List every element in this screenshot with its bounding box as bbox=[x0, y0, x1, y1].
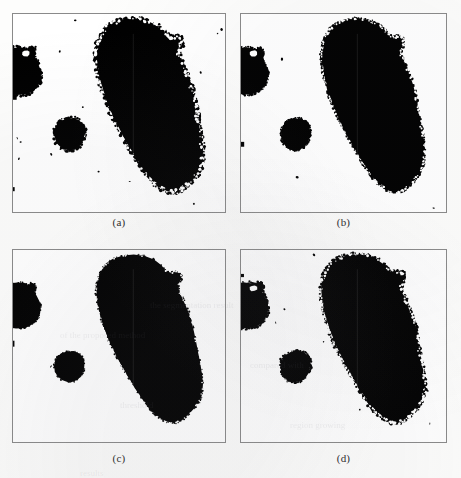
figure-panel-c: (c) bbox=[12, 249, 226, 468]
figure-panel-grid: (a)(b)(c)(d) bbox=[0, 0, 461, 478]
panel-image-frame-b bbox=[240, 13, 447, 213]
binary-segmentation-image-a bbox=[13, 14, 225, 212]
figure-panel-b: (b) bbox=[240, 13, 447, 232]
panel-image-frame-c bbox=[12, 249, 226, 443]
figure-panel-d: (d) bbox=[240, 249, 447, 468]
binary-segmentation-image-c bbox=[13, 250, 225, 442]
binary-segmentation-image-d bbox=[241, 250, 446, 442]
panel-image-frame-d bbox=[240, 249, 447, 443]
figure-panel-a: (a) bbox=[12, 13, 226, 232]
panel-caption-d: (d) bbox=[240, 452, 447, 464]
panel-caption-c: (c) bbox=[12, 452, 226, 464]
binary-segmentation-image-b bbox=[241, 14, 446, 212]
panel-image-frame-a bbox=[12, 13, 226, 213]
panel-caption-b: (b) bbox=[240, 216, 447, 228]
panel-caption-a: (a) bbox=[12, 216, 226, 228]
